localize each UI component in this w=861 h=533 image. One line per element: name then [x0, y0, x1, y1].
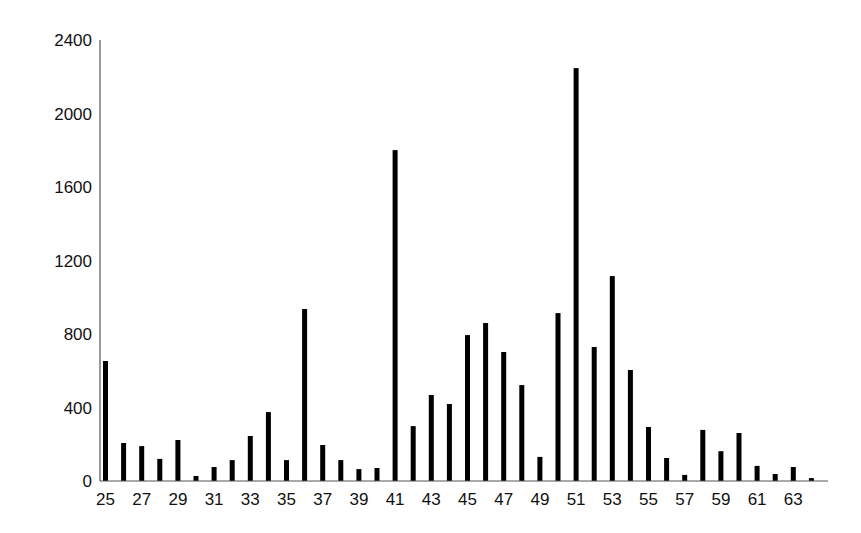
bar-chart: 04008001200160020002400 2527293133353739… — [0, 0, 861, 533]
y-tick-label: 2000 — [54, 105, 92, 124]
bar-36 — [302, 309, 307, 481]
x-tick-label: 53 — [603, 490, 622, 509]
x-tick-label: 25 — [96, 490, 115, 509]
bar-28 — [157, 459, 162, 481]
bar-39 — [356, 469, 361, 481]
x-tick-label: 33 — [241, 490, 260, 509]
x-tick-label: 57 — [675, 490, 694, 509]
bar-41 — [393, 150, 398, 481]
y-tick-label: 2400 — [54, 31, 92, 50]
bar-53 — [610, 276, 615, 481]
y-tick-labels: 04008001200160020002400 — [54, 31, 92, 491]
bar-25 — [103, 361, 108, 481]
x-tick-label: 49 — [530, 490, 549, 509]
x-tick-labels: 2527293133353739414345474951535557596163 — [96, 490, 803, 509]
bar-48 — [519, 385, 524, 481]
bar-44 — [447, 404, 452, 481]
bar-57 — [682, 475, 687, 481]
bar-32 — [230, 460, 235, 481]
bar-45 — [465, 335, 470, 481]
bar-62 — [773, 474, 778, 481]
x-tick-label: 45 — [458, 490, 477, 509]
bar-42 — [411, 426, 416, 481]
x-tick-label: 63 — [784, 490, 803, 509]
x-tick-label: 37 — [313, 490, 332, 509]
bar-37 — [320, 445, 325, 481]
bar-26 — [121, 443, 126, 481]
bars — [103, 68, 814, 481]
y-tick-label: 0 — [83, 472, 92, 491]
bar-60 — [737, 433, 742, 481]
bar-46 — [483, 323, 488, 481]
x-tick-label: 27 — [132, 490, 151, 509]
bar-49 — [537, 457, 542, 481]
bar-29 — [175, 440, 180, 481]
bar-35 — [284, 460, 289, 481]
bar-31 — [212, 467, 217, 481]
bar-43 — [429, 395, 434, 481]
y-tick-label: 1200 — [54, 252, 92, 271]
bar-38 — [338, 460, 343, 481]
x-tick-label: 41 — [386, 490, 405, 509]
bar-52 — [592, 347, 597, 481]
x-tick-label: 35 — [277, 490, 296, 509]
bar-50 — [556, 313, 561, 481]
y-tick-label: 1600 — [54, 178, 92, 197]
x-tick-label: 39 — [349, 490, 368, 509]
x-tick-label: 29 — [168, 490, 187, 509]
x-tick-label: 47 — [494, 490, 513, 509]
bar-56 — [664, 458, 669, 481]
bar-54 — [628, 370, 633, 481]
bar-30 — [194, 476, 199, 481]
x-tick-label: 31 — [205, 490, 224, 509]
bar-63 — [791, 467, 796, 481]
bar-40 — [375, 468, 380, 481]
bar-51 — [574, 68, 579, 481]
bar-58 — [700, 430, 705, 481]
bar-27 — [139, 446, 144, 481]
y-tick-label: 800 — [64, 325, 92, 344]
bar-61 — [755, 466, 760, 481]
y-tick-label: 400 — [64, 399, 92, 418]
bar-34 — [266, 412, 271, 481]
x-tick-label: 43 — [422, 490, 441, 509]
x-tick-label: 51 — [567, 490, 586, 509]
bar-55 — [646, 427, 651, 481]
x-tick-label: 61 — [748, 490, 767, 509]
bar-59 — [718, 451, 723, 481]
x-tick-label: 59 — [711, 490, 730, 509]
bar-47 — [501, 352, 506, 481]
x-tick-label: 55 — [639, 490, 658, 509]
bar-33 — [248, 436, 253, 481]
